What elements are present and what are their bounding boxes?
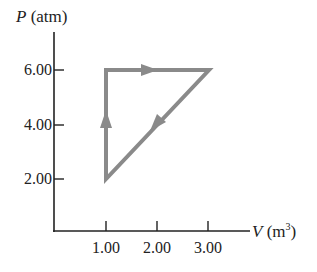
x-axis-unit: (m [267, 222, 286, 241]
y-axis-var: P [16, 7, 26, 26]
x-tick-label-2: 2.00 [135, 240, 179, 256]
arrow-right-icon [141, 64, 158, 76]
y-tick-label-6: 6.00 [8, 62, 52, 78]
y-axis-unit: (atm) [31, 7, 68, 26]
x-axis-var: V [252, 222, 262, 241]
x-tick-label-1: 1.00 [84, 240, 128, 256]
y-tick-label-2: 2.00 [8, 171, 52, 187]
x-axis-label: V (m3) [252, 222, 296, 240]
y-tick-label-4: 4.00 [8, 117, 52, 133]
x-axis-close: ) [291, 222, 297, 241]
x-tick-label-3: 3.00 [186, 240, 230, 256]
arrow-up-icon [100, 110, 112, 128]
y-axis-label: P (atm) [16, 8, 67, 25]
